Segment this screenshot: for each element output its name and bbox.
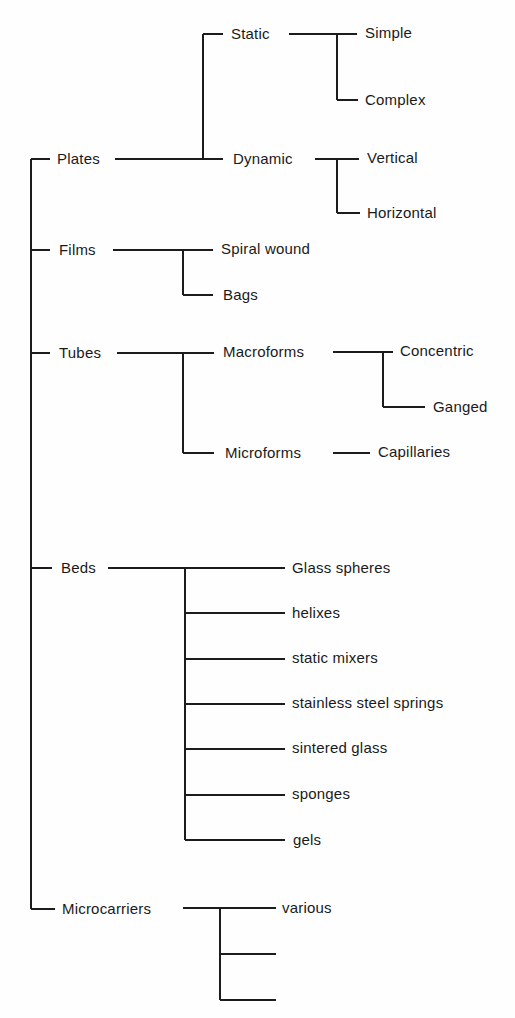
node-concentric: Concentric: [400, 342, 474, 360]
node-capillaries: Capillaries: [378, 443, 450, 461]
node-static: Static: [231, 25, 270, 43]
node-glass-spheres: Glass spheres: [292, 559, 390, 577]
node-spiral-wound: Spiral wound: [221, 240, 310, 258]
node-macroforms: Macroforms: [223, 343, 304, 361]
node-various: various: [282, 899, 332, 917]
node-plates: Plates: [57, 150, 100, 168]
node-complex: Complex: [365, 91, 426, 109]
node-beds: Beds: [61, 559, 96, 577]
node-simple: Simple: [365, 24, 412, 42]
node-horizontal: Horizontal: [367, 204, 437, 222]
classification-tree-diagram: Plates Films Tubes Beds Microcarriers St…: [0, 0, 515, 1018]
node-gels: gels: [293, 831, 321, 849]
node-stainless-steel-springs: stainless steel springs: [292, 694, 443, 712]
node-microcarriers: Microcarriers: [62, 900, 151, 918]
node-microforms: Microforms: [225, 444, 301, 462]
node-bags: Bags: [223, 286, 258, 304]
node-sponges: sponges: [292, 785, 350, 803]
node-films: Films: [59, 241, 96, 259]
node-sintered-glass: sintered glass: [292, 739, 387, 757]
node-tubes: Tubes: [59, 344, 101, 362]
node-vertical: Vertical: [367, 149, 418, 167]
node-static-mixers: static mixers: [292, 649, 378, 667]
node-ganged: Ganged: [433, 398, 488, 416]
node-dynamic: Dynamic: [233, 150, 293, 168]
node-helixes: helixes: [292, 604, 340, 622]
